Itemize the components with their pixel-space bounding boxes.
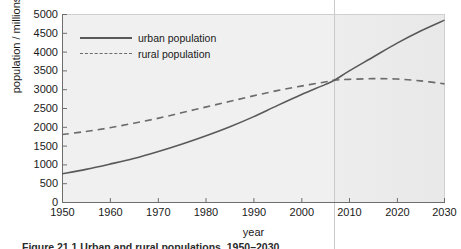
y-tick-label: 1500 (22, 141, 58, 152)
y-tick-label: 1000 (22, 159, 58, 170)
figure-caption: Figure 21.1 Urban and rural populations,… (22, 241, 452, 249)
y-tick-label: 3000 (22, 84, 58, 95)
x-tick-label: 2000 (282, 206, 322, 218)
x-tick-label: 1950 (43, 206, 83, 218)
x-axis-tick-labels: 1950 1960 1970 1980 1990 2000 2010 2020 … (0, 206, 456, 222)
x-tick-label: 1980 (186, 206, 226, 218)
x-tick-label: 2010 (330, 206, 370, 218)
plot-background-shade (335, 14, 445, 203)
y-tick-label: 2500 (22, 103, 58, 114)
y-tick-label: 2000 (22, 122, 58, 133)
legend-item-rural-population: rural population (80, 46, 230, 62)
dashed-line-key-icon (80, 53, 132, 54)
legend-item-label: rural population (138, 48, 210, 60)
x-tick-label: 1970 (138, 206, 178, 218)
solid-line-key-icon (80, 37, 132, 39)
y-tick-label: 3500 (22, 65, 58, 76)
y-tick-label: 4500 (22, 28, 58, 39)
x-tick-label: 1960 (90, 206, 130, 218)
legend-item-label: urban population (138, 32, 216, 44)
x-tick-label: 2030 (425, 206, 461, 218)
y-axis-title: population / millions (10, 0, 24, 130)
x-tick-label: 2020 (377, 206, 417, 218)
legend-item-urban-population: urban population (80, 30, 230, 46)
y-tick-label: 500 (22, 178, 58, 189)
y-tick-label: 5000 (22, 9, 58, 20)
chart-legend: urban population rural population (80, 30, 230, 62)
x-axis-title: year (62, 226, 445, 238)
y-tick-label: 4000 (22, 47, 58, 58)
x-tick-label: 1990 (234, 206, 274, 218)
